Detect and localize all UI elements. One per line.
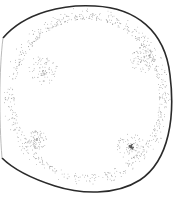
stipple-texture [4,8,171,184]
fruit-illustration [0,0,175,205]
upper-left-spot [29,57,58,86]
lower-left-spot [28,130,47,149]
fruit-outline [2,6,172,192]
lower-right-spot [117,134,143,159]
upper-right-spot [130,47,155,73]
surface-spots [28,47,156,158]
left-edge-shadow [0,38,3,158]
